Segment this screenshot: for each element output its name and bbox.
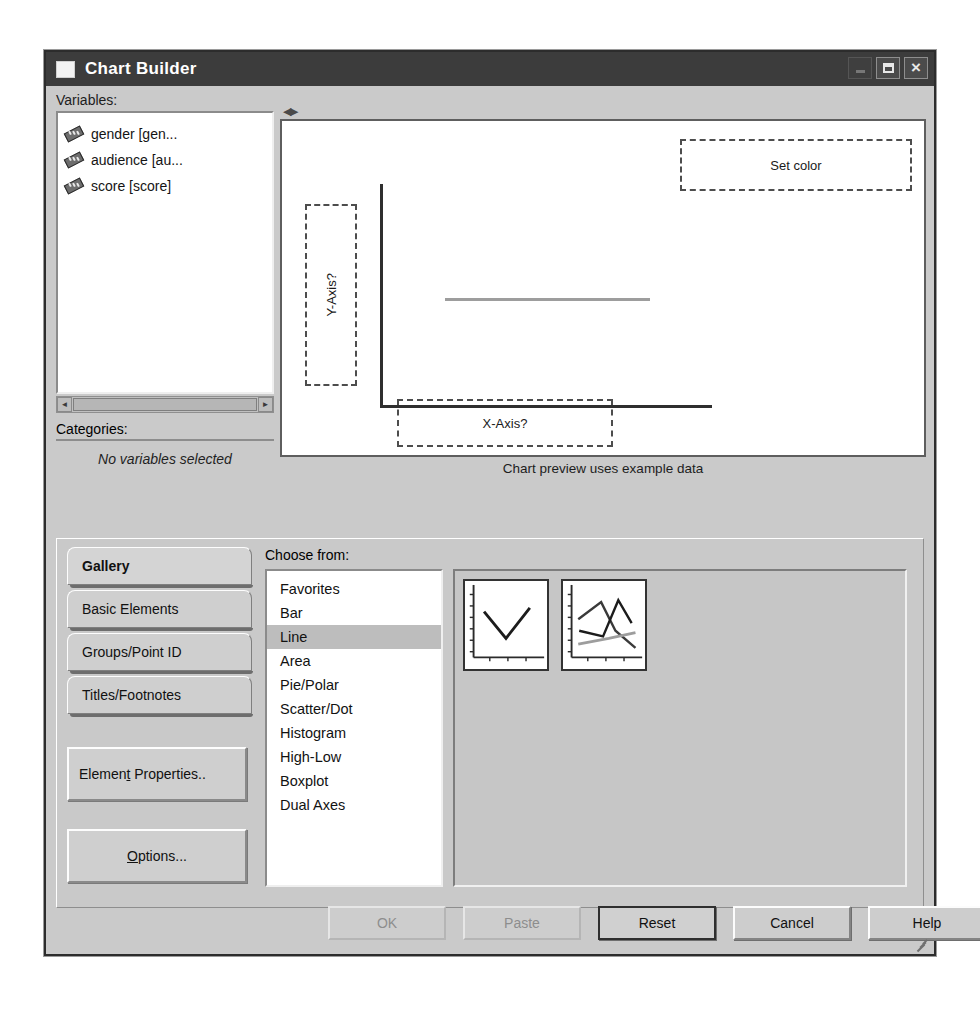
variable-name: score [score] [91, 178, 171, 194]
minimize-button[interactable] [848, 57, 872, 79]
resize-grip[interactable] [913, 935, 929, 951]
gallery-item-high-low[interactable]: High-Low [267, 745, 441, 769]
gallery-thumbnails-panel [453, 569, 907, 887]
tab-basic-elements-label: Basic Elements [82, 601, 178, 617]
element-properties-button[interactable]: Element Properties.. [67, 747, 247, 801]
maximize-icon [883, 63, 894, 73]
gallery-item-label: Pie/Polar [280, 677, 339, 693]
splitter-arrows-icon[interactable]: ◀▶ [283, 105, 297, 118]
cancel-button[interactable]: Cancel [733, 906, 851, 940]
gallery-thumbnail-multiple-line[interactable] [561, 579, 647, 671]
gallery-item-bar[interactable]: Bar [267, 601, 441, 625]
help-label: Help [913, 915, 942, 931]
variables-horizontal-scrollbar[interactable]: ◄ ► [56, 396, 274, 413]
chart-preview-caption: Chart preview uses example data [280, 461, 926, 476]
chart-canvas[interactable]: Set color Y-Axis? X-Axis? [280, 119, 926, 457]
variables-label: Variables: [56, 92, 274, 108]
gallery-item-label: Histogram [280, 725, 346, 741]
gallery-type-list[interactable]: Favorites Bar Line Area Pie/Polar Scatte… [265, 569, 443, 887]
scroll-track[interactable] [73, 398, 257, 411]
app-icon [56, 61, 75, 78]
tab-gallery[interactable]: Gallery [67, 547, 252, 585]
gallery-item-label: Bar [280, 605, 303, 621]
close-icon: × [911, 59, 921, 76]
dropzone-y-axis-label: Y-Axis? [324, 273, 339, 317]
tab-strip: Gallery Basic Elements Groups/Point ID T… [67, 547, 252, 719]
ruler-icon [64, 154, 84, 167]
gallery-item-dual-axes[interactable]: Dual Axes [267, 793, 441, 817]
variables-panel: Variables: gender [gen... audience [au..… [56, 92, 274, 495]
list-item[interactable]: score [score] [64, 173, 268, 199]
tab-gallery-label: Gallery [82, 558, 129, 574]
gallery-item-label: Line [280, 629, 307, 645]
scroll-right-arrow-icon[interactable]: ► [258, 397, 273, 412]
gallery-thumbnail-simple-line[interactable] [463, 579, 549, 671]
gallery-item-scatter-dot[interactable]: Scatter/Dot [267, 697, 441, 721]
tab-groups-point-id[interactable]: Groups/Point ID [67, 633, 252, 671]
reset-button[interactable]: Reset [598, 906, 716, 940]
preview-data-line [445, 298, 650, 301]
gallery-item-label: Scatter/Dot [280, 701, 353, 717]
x-axis-line [380, 405, 712, 408]
ruler-icon [64, 180, 84, 193]
ok-button[interactable]: OK [328, 906, 446, 940]
dropzone-set-color-label: Set color [770, 158, 821, 173]
chart-preview-area: Set color Y-Axis? X-Axis? Chart preview … [280, 119, 926, 494]
list-item[interactable]: gender [gen... [64, 121, 268, 147]
dropzone-x-axis-label: X-Axis? [483, 416, 528, 431]
footer-button-bar: OK Paste Reset Cancel Help [46, 906, 934, 946]
tab-groups-point-id-label: Groups/Point ID [82, 644, 182, 660]
paste-label: Paste [504, 915, 540, 931]
title-bar[interactable]: Chart Builder × [46, 52, 934, 86]
element-properties-label: Element Properties.. [79, 766, 206, 782]
maximize-button[interactable] [876, 57, 900, 79]
gallery-item-favorites[interactable]: Favorites [267, 577, 441, 601]
gallery-item-pie-polar[interactable]: Pie/Polar [267, 673, 441, 697]
scroll-left-arrow-icon[interactable]: ◄ [57, 397, 72, 412]
screenshot-root: Chart Builder × Variables: gender [gen..… [0, 0, 980, 1016]
categories-empty-text: No variables selected [56, 451, 274, 467]
window-title: Chart Builder [85, 59, 197, 79]
tab-titles-footnotes[interactable]: Titles/Footnotes [67, 676, 252, 714]
chart-builder-window: Chart Builder × Variables: gender [gen..… [44, 50, 936, 956]
top-area: Variables: gender [gen... audience [au..… [54, 92, 926, 512]
gallery-item-label: Favorites [280, 581, 340, 597]
window-controls: × [848, 57, 928, 79]
gallery-item-label: Area [280, 653, 311, 669]
window-body: Variables: gender [gen... audience [au..… [46, 86, 934, 954]
gallery-item-boxplot[interactable]: Boxplot [267, 769, 441, 793]
tab-titles-footnotes-label: Titles/Footnotes [82, 687, 181, 703]
paste-button[interactable]: Paste [463, 906, 581, 940]
variables-list[interactable]: gender [gen... audience [au... score [sc… [56, 111, 274, 394]
gallery-item-label: Boxplot [280, 773, 328, 789]
categories-label: Categories: [56, 421, 274, 437]
gallery-item-histogram[interactable]: Histogram [267, 721, 441, 745]
simple-line-chart-icon [465, 581, 547, 669]
multiple-line-chart-icon [563, 581, 645, 669]
options-label: Options... [127, 848, 187, 864]
choose-from-label: Choose from: [265, 547, 349, 563]
gallery-item-line[interactable]: Line [267, 625, 441, 649]
minimize-icon [856, 70, 865, 73]
ok-label: OK [377, 915, 397, 931]
options-button[interactable]: Options... [67, 829, 247, 883]
categories-box: No variables selected [56, 439, 274, 495]
gallery-item-area[interactable]: Area [267, 649, 441, 673]
gallery-item-label: Dual Axes [280, 797, 345, 813]
dropzone-y-axis[interactable]: Y-Axis? [305, 204, 357, 386]
dropzone-set-color[interactable]: Set color [680, 139, 912, 191]
list-item[interactable]: audience [au... [64, 147, 268, 173]
reset-label: Reset [639, 915, 676, 931]
cancel-label: Cancel [770, 915, 814, 931]
scroll-thumb[interactable] [73, 398, 257, 411]
tab-basic-elements[interactable]: Basic Elements [67, 590, 252, 628]
variable-name: audience [au... [91, 152, 183, 168]
y-axis-line [380, 184, 383, 407]
gallery-item-label: High-Low [280, 749, 341, 765]
close-button[interactable]: × [904, 57, 928, 79]
ruler-icon [64, 128, 84, 141]
variable-name: gender [gen... [91, 126, 177, 142]
gallery-panel: Gallery Basic Elements Groups/Point ID T… [56, 538, 924, 908]
